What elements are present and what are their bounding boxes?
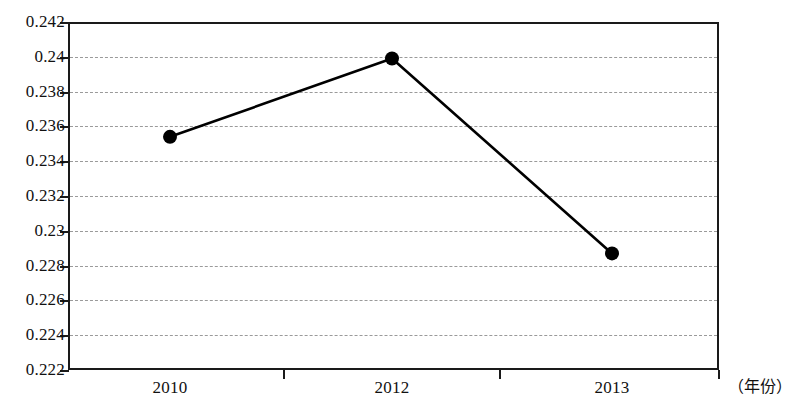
gridline [70, 266, 717, 267]
x-axis-tick [499, 370, 501, 379]
y-axis-tick-label: 0.224 [26, 326, 65, 343]
y-axis-tick-label: 0.228 [26, 257, 65, 274]
y-axis-tick-label: 0.222 [26, 361, 65, 378]
y-axis-tick-label: 0.232 [26, 187, 65, 204]
y-axis-tick-label: 0.24 [34, 48, 65, 65]
y-axis-tick-label: 0.242 [26, 13, 65, 30]
x-axis-title: （年份） [728, 379, 791, 395]
gridline [70, 92, 717, 93]
x-axis-tick [283, 370, 285, 379]
y-axis-tick-label: 0.23 [34, 222, 65, 239]
gridline [70, 126, 717, 127]
gridline [70, 161, 717, 162]
y-axis-tick-label: 0.226 [26, 291, 65, 308]
y-axis-tick-label: 0.234 [26, 152, 65, 169]
plot-area [68, 22, 719, 370]
gridline [70, 300, 717, 301]
gridline [70, 57, 717, 58]
x-axis-tick [718, 370, 720, 379]
x-axis-tick-label: 2010 [153, 379, 188, 396]
gridline [70, 196, 717, 197]
line-chart: 201020122013 （年份） 0.2420.240.2380.2360.2… [0, 0, 791, 405]
gridline [70, 335, 717, 336]
x-axis-tick-label: 2012 [375, 379, 410, 396]
gridline [70, 231, 717, 232]
x-axis-tick-label: 2013 [595, 379, 630, 396]
y-axis-tick-label: 0.238 [26, 83, 65, 100]
y-axis-tick-label: 0.236 [26, 117, 65, 134]
